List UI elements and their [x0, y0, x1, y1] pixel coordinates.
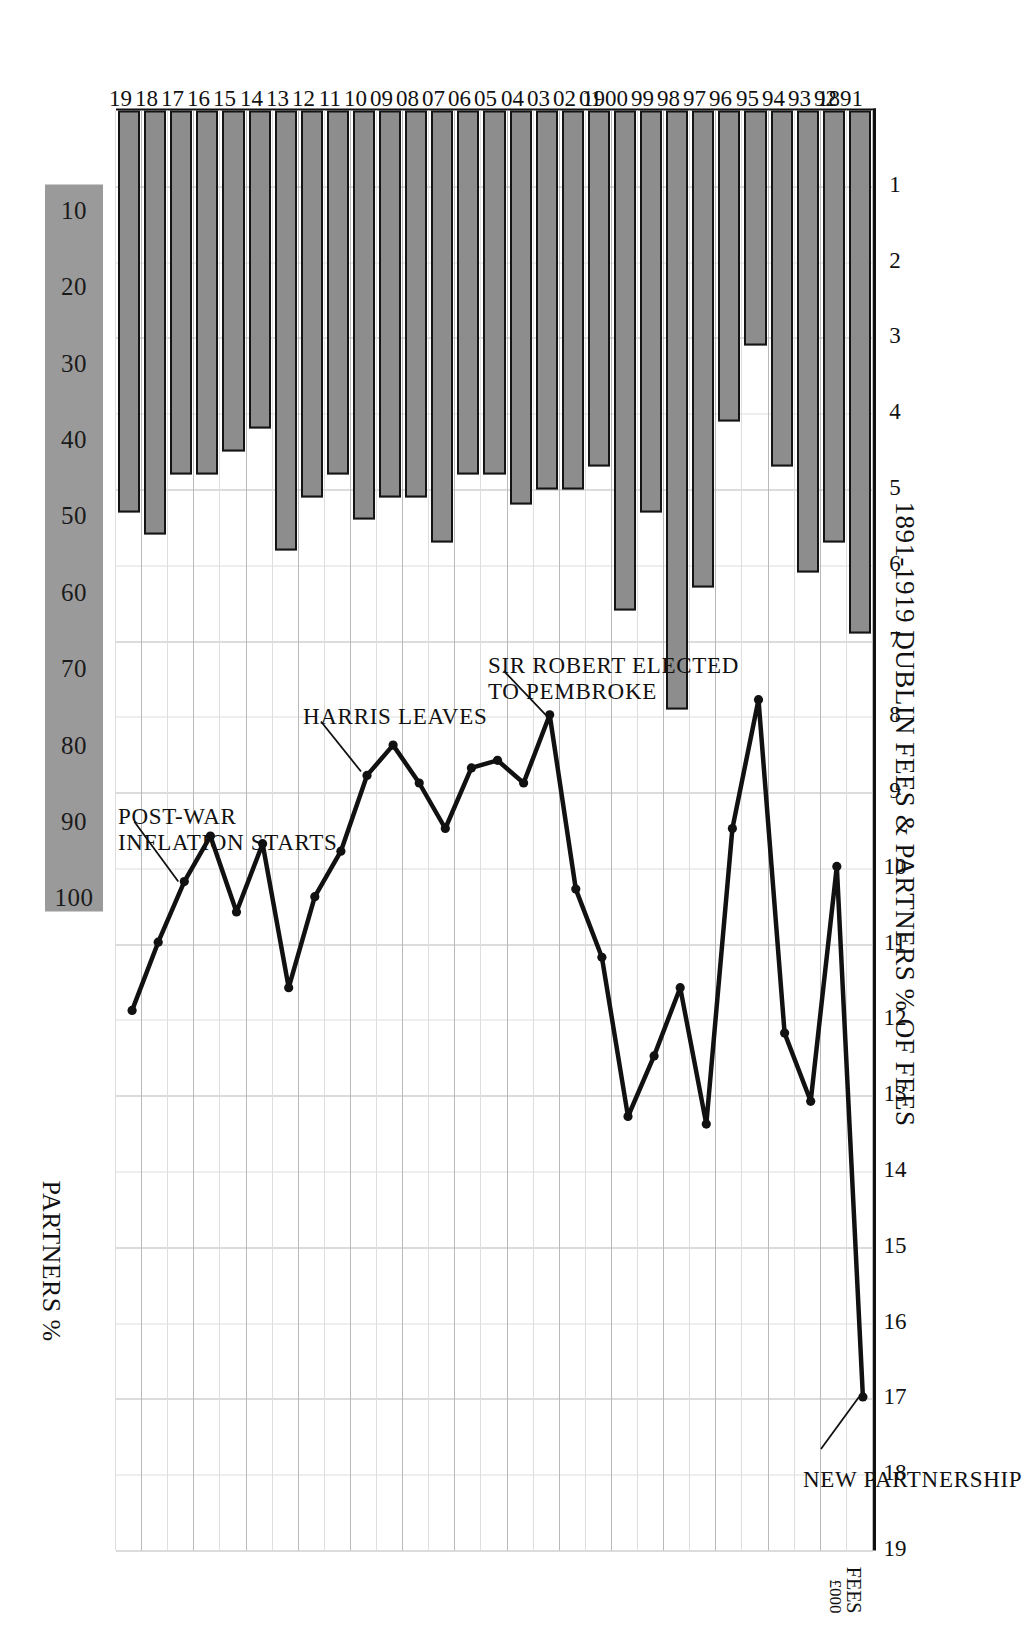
fees-tick-3: 3: [889, 324, 901, 347]
year-tick-03: 03: [527, 87, 550, 110]
annotation-new-partnership: NEW PARTNERSHIP: [803, 1466, 1022, 1492]
partners-tick-80: 80: [61, 732, 87, 757]
gridline-vertical: [116, 1323, 873, 1324]
gridline-vertical: [116, 716, 873, 717]
bar-16: [196, 110, 218, 474]
gridline-horizontal: [376, 110, 377, 1550]
bar-19: [118, 110, 140, 512]
annotation-harris-leaves: HARRIS LEAVES: [303, 703, 487, 729]
partners-tick-10: 10: [61, 197, 87, 222]
partners-tick-40: 40: [61, 426, 87, 451]
year-axis-ticks: 1891929394959697989919000102030405060708…: [119, 0, 876, 108]
year-tick-02: 02: [553, 87, 576, 110]
gridline-horizontal: [741, 110, 742, 1550]
gridline-vertical: [116, 565, 873, 566]
bar-98: [666, 110, 688, 709]
gridline-horizontal: [820, 110, 821, 1550]
gridline-horizontal: [533, 110, 534, 1550]
bar-17: [170, 110, 192, 474]
bar-12: [301, 110, 323, 497]
partners-tick-50: 50: [61, 503, 87, 528]
bar-18: [144, 110, 166, 534]
gridline-vertical: [116, 641, 873, 642]
year-tick-09: 09: [370, 87, 393, 110]
fees-tick-14: 14: [884, 1158, 907, 1181]
gridline-horizontal: [559, 110, 560, 1550]
year-tick-07: 07: [422, 87, 445, 110]
fees-tick-8: 8: [889, 703, 901, 726]
gridline-vertical: [116, 1550, 873, 1551]
bar-14: [249, 110, 271, 428]
fees-tick-12: 12: [884, 1006, 907, 1029]
bar-15: [222, 110, 244, 451]
gridline-horizontal: [428, 110, 429, 1550]
partners-tick-90: 90: [61, 808, 87, 833]
fees-tick-19: 19: [884, 1537, 907, 1560]
bar-11: [327, 110, 349, 474]
year-tick-04: 04: [501, 87, 524, 110]
bar-13: [275, 110, 297, 550]
fees-axis-label-line1: FEES: [844, 1566, 864, 1613]
annotation-post-war-inflation: POST-WAR INFLATION STARTS: [118, 803, 337, 855]
gridline-horizontal: [480, 110, 481, 1550]
fees-tick-16: 16: [884, 1309, 907, 1332]
year-tick-18: 18: [135, 87, 158, 110]
bar-09: [379, 110, 401, 497]
partners-axis-band: 102030405060708090100: [45, 184, 103, 912]
bar-92: [823, 110, 845, 542]
year-tick-17: 17: [161, 87, 184, 110]
fees-tick-11: 11: [884, 930, 906, 953]
year-tick-93: 93: [788, 87, 811, 110]
annotation-sir-robert-elected: SIR ROBERT ELECTED TO PEMBROKE: [488, 652, 739, 704]
gridline-horizontal: [794, 110, 795, 1550]
gridline-horizontal: [689, 110, 690, 1550]
partners-tick-20: 20: [61, 274, 87, 299]
year-tick-97: 97: [683, 87, 706, 110]
bar-97: [692, 110, 714, 587]
gridline-vertical: [116, 1474, 873, 1475]
fees-tick-15: 15: [884, 1233, 907, 1256]
year-tick-94: 94: [762, 87, 785, 110]
gridline-vertical: [116, 944, 873, 945]
gridline-vertical: [116, 1019, 873, 1020]
year-tick-01: 01: [579, 87, 602, 110]
gridline-horizontal: [454, 110, 455, 1550]
fees-tick-17: 17: [884, 1385, 907, 1408]
fees-tick-6: 6: [889, 551, 901, 574]
year-tick-14: 14: [240, 87, 263, 110]
gridline-horizontal: [402, 110, 403, 1550]
gridline-horizontal: [115, 110, 116, 1550]
bar-02: [562, 110, 584, 489]
bar-07: [431, 110, 453, 542]
year-tick-19: 19: [109, 87, 132, 110]
year-tick-10: 10: [344, 87, 367, 110]
bar-01: [588, 110, 610, 466]
partners-tick-70: 70: [61, 656, 87, 681]
gridline-horizontal: [715, 110, 716, 1550]
bar-1891: [849, 110, 871, 633]
gridline-vertical: [116, 1095, 873, 1096]
year-tick-11: 11: [319, 87, 341, 110]
gridline-vertical: [116, 792, 873, 793]
bar-08: [405, 110, 427, 497]
gridline-vertical: [116, 489, 873, 490]
fees-axis-ticks: 12345678910111213141516171819: [880, 108, 910, 1548]
bar-04: [510, 110, 532, 504]
gridline-horizontal: [350, 110, 351, 1550]
fees-tick-7: 7: [889, 627, 901, 650]
year-tick-92: 92: [814, 87, 837, 110]
year-tick-96: 96: [709, 87, 732, 110]
bar-99: [640, 110, 662, 512]
bar-94: [771, 110, 793, 466]
fees-tick-1: 1: [889, 172, 901, 195]
partners-tick-30: 30: [61, 350, 87, 375]
year-tick-12: 12: [292, 87, 315, 110]
fees-axis-label: FEES £000: [826, 1566, 864, 1613]
gridline-horizontal: [507, 110, 508, 1550]
year-tick-99: 99: [631, 87, 654, 110]
bar-10: [353, 110, 375, 519]
gridline-horizontal: [768, 110, 769, 1550]
gridline-horizontal: [611, 110, 612, 1550]
gridline-vertical: [116, 868, 873, 869]
